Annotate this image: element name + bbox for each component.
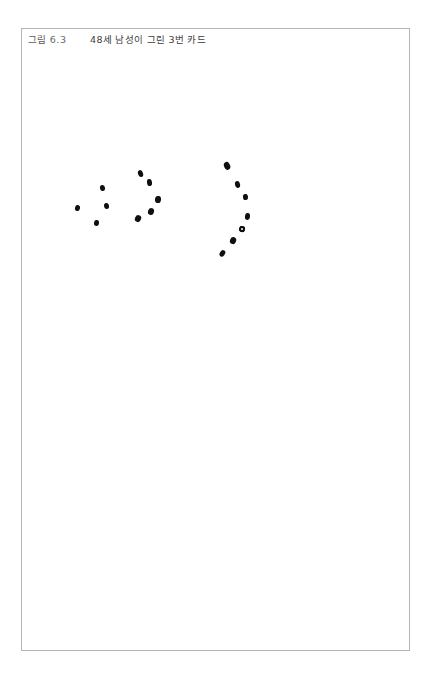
ink-dot	[229, 236, 237, 245]
hand-drawn-dot-pattern	[22, 29, 409, 650]
ink-dot	[147, 179, 153, 187]
ink-dot	[134, 215, 142, 224]
ink-dot	[99, 184, 105, 191]
page-running-header: · · ·	[352, 0, 410, 9]
ink-dot	[245, 212, 251, 219]
ink-dot	[137, 169, 144, 177]
ink-dot	[235, 180, 241, 187]
ink-dot	[103, 203, 109, 209]
figure-frame: 그림 6.3 48세 남성이 그린 3번 카드	[21, 28, 410, 651]
ink-dot	[155, 196, 162, 204]
ink-dot	[147, 207, 154, 215]
ink-dot	[242, 194, 247, 201]
ink-dot	[74, 205, 80, 212]
ink-dot	[219, 249, 227, 257]
ink-dot	[238, 225, 245, 233]
ink-dot	[94, 220, 100, 226]
ink-dot	[223, 161, 231, 170]
